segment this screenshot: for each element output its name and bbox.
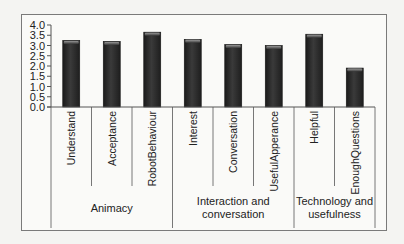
category-label: Acceptance: [106, 111, 118, 166]
y-tick-label: 1.0: [30, 81, 45, 93]
bar: [63, 40, 80, 107]
bar-highlight: [145, 33, 160, 36]
y-tick-label: 0.0: [30, 101, 45, 113]
bar: [144, 32, 161, 107]
category-label: RobotBehaviour: [146, 111, 158, 187]
bar-highlight: [226, 45, 241, 48]
category-label: EnoughQuestions: [349, 111, 361, 194]
bar-interest: [184, 39, 201, 107]
group-label: conversation: [202, 208, 264, 220]
bar-acceptance: [103, 41, 120, 107]
bar: [306, 34, 323, 107]
bars: [63, 32, 364, 107]
y-tick-label: 4.0: [30, 19, 45, 31]
bar-helpful: [306, 34, 323, 107]
y-tick-label: 2.0: [30, 60, 45, 72]
category-label: Conversation: [227, 111, 239, 173]
bar: [225, 44, 242, 107]
group-label: Interaction and: [197, 195, 270, 207]
bar: [184, 39, 201, 107]
group-label: usefulness: [308, 208, 361, 220]
bar-highlight: [347, 69, 362, 72]
y-tick-label: 2.5: [30, 50, 45, 62]
bar-enoughquestions: [346, 68, 363, 107]
bar-highlight: [185, 40, 200, 43]
bar-highlight: [64, 41, 79, 44]
group-label: Animacy: [91, 202, 134, 214]
y-tick-label: 0.5: [30, 91, 45, 103]
category-label: Helpful: [308, 111, 320, 144]
bar: [265, 46, 282, 108]
bar-highlight: [104, 42, 119, 45]
bar-usefulapperance: [265, 46, 282, 108]
category-label: UsefulApperance: [268, 111, 280, 192]
bar: [103, 41, 120, 107]
bar-highlight: [307, 35, 322, 38]
group-label: Technology and: [296, 195, 373, 207]
y-axis: 0.00.51.01.52.02.53.03.54.0: [30, 19, 51, 113]
y-tick-label: 3.5: [30, 29, 45, 41]
category-label: Interest: [187, 111, 199, 146]
x-axis: UnderstandAcceptanceRobotBehaviourIntere…: [47, 107, 375, 228]
bar-understand: [63, 40, 80, 107]
bar-conversation: [225, 44, 242, 107]
bar-chart: 0.00.51.01.52.02.53.03.54.0 UnderstandAc…: [0, 0, 404, 244]
category-label: Understand: [65, 111, 77, 165]
bar: [346, 68, 363, 107]
y-tick-label: 1.5: [30, 70, 45, 82]
y-tick-label: 3.0: [30, 40, 45, 52]
bar-robotbehaviour: [144, 32, 161, 107]
bar-highlight: [266, 46, 281, 49]
